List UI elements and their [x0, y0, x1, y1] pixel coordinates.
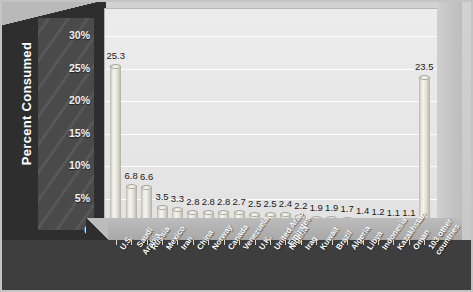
x-axis-tick-4: [177, 240, 178, 245]
y-axis-tick-2: 20%: [38, 94, 90, 106]
bar-value-label-6: 2.8: [202, 196, 215, 207]
y-axis-title: Percent Consumed: [19, 29, 34, 179]
bar-value-label-8: 2.7: [233, 196, 246, 207]
x-axis-tick-19: [409, 240, 410, 245]
x-axis-tick-16: [363, 240, 364, 245]
bar-value-label-5: 2.8: [186, 196, 199, 207]
bar-value-label-13: 1.9: [310, 202, 323, 213]
x-axis-tick-9: [255, 240, 256, 245]
bar-value-label-19: 1.1: [402, 207, 415, 218]
bar-top-ellipse: [126, 184, 137, 189]
x-axis-tick-3: [162, 240, 163, 245]
x-axis-tick-5: [193, 240, 194, 245]
x-axis-tick-18: [393, 240, 394, 245]
bar-value-label-10: 2.5: [263, 198, 276, 209]
y-axis-tick-0: 30%: [38, 29, 90, 41]
bar-value-label-15: 1.7: [341, 203, 354, 214]
bar-value-label-7: 2.8: [217, 196, 230, 207]
bar-value-label-14: 1.9: [325, 202, 338, 213]
x-axis-tick-10: [270, 240, 271, 245]
bar-body: [110, 66, 121, 230]
bar-20: 23.5: [419, 77, 430, 230]
bar-value-label-16: 1.4: [356, 205, 369, 216]
x-axis-tick-0: [116, 240, 117, 245]
x-axis-tick-15: [347, 240, 348, 245]
bar-top-ellipse: [187, 210, 198, 215]
bar-value-label-3: 3.5: [155, 191, 168, 202]
bar-value-label-9: 2.5: [248, 198, 261, 209]
bar-value-label-18: 1.1: [387, 207, 400, 218]
bar-value-label-11: 2.4: [279, 198, 292, 209]
bar-value-label-2: 6.6: [140, 171, 153, 182]
bar-series: 25.36.86.63.53.32.82.82.82.72.52.52.42.2…: [104, 8, 462, 230]
x-axis-tick-2: [147, 240, 148, 245]
bar-value-label-12: 2.2: [294, 200, 307, 211]
bar-top-ellipse: [218, 210, 229, 215]
bar-top-ellipse: [110, 64, 121, 69]
floor-corner-bevel: [86, 218, 108, 240]
bar-value-label-20: 23.5: [415, 61, 434, 72]
x-axis-tick-1: [131, 240, 132, 245]
x-axis-tick-6: [208, 240, 209, 245]
y-axis-tick-1: 25%: [38, 62, 90, 74]
bar-0: 25.3: [110, 66, 121, 230]
bar-value-label-4: 3.3: [171, 193, 184, 204]
x-axis-tick-11: [285, 240, 286, 245]
x-axis-tick-12: [301, 240, 302, 245]
x-axis-tick-17: [378, 240, 379, 245]
x-axis-tick-13: [316, 240, 317, 245]
bar-value-label-17: 1.2: [371, 206, 384, 217]
chart-screenshot: Percent Consumed 30%25%20%15%10%5%0 25.3…: [0, 0, 473, 292]
bar-top-ellipse: [172, 207, 183, 212]
x-axis-label-strip: U.S.Saudi ArabiaRussiaMexicoIranChinaNor…: [0, 240, 473, 292]
y-axis-tick-5: 5%: [38, 192, 90, 204]
y-axis-tick-3: 15%: [38, 127, 90, 139]
x-axis-tick-7: [224, 240, 225, 245]
bar-top-ellipse: [249, 212, 260, 217]
x-axis-tick-8: [239, 240, 240, 245]
bar-value-label-1: 6.8: [125, 170, 138, 181]
bar-top-ellipse: [203, 210, 214, 215]
y-axis-tick-4: 10%: [38, 159, 90, 171]
bar-body: [419, 77, 430, 230]
x-axis-tick-20: [424, 240, 425, 245]
x-axis-tick-14: [332, 240, 333, 245]
bar-value-label-0: 25.3: [106, 50, 125, 61]
y-axis-tick-6: 0: [38, 224, 90, 236]
